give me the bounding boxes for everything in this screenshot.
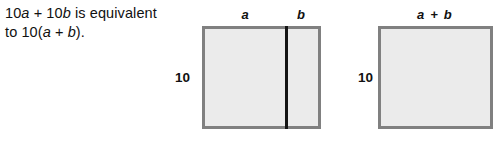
statement-line2-prefix: to 10( <box>5 24 43 40</box>
worked-example-figure: 10a + 10b is equivalent to 10(a + b). a … <box>0 0 503 142</box>
statement-line2-var-b: b <box>68 24 76 40</box>
statement-line1-suffix: is equivalent <box>71 5 157 21</box>
statement-line2-var-a: a <box>43 24 51 40</box>
equivalence-statement: 10a + 10b is equivalent to 10(a + b). <box>5 4 163 42</box>
figure2-side-label-height: 10 <box>358 70 373 85</box>
statement-line1-var-a: a <box>21 5 29 21</box>
statement-line1-prefix: 10 <box>5 5 21 21</box>
statement-line1-var-b: b <box>63 5 71 21</box>
statement-line-2: to 10(a + b). <box>5 23 163 42</box>
figure2-top-label-a-plus-b: a + b <box>396 8 474 22</box>
statement-line2-suffix: ). <box>76 24 85 40</box>
figure1-top-label-b: b <box>287 8 315 22</box>
figure1-rectangle <box>202 26 321 129</box>
figure1-vertical-divider <box>285 26 288 129</box>
figure1-side-label-height: 10 <box>175 70 190 85</box>
statement-line1-mid: + 10 <box>30 5 63 21</box>
figure2-rectangle <box>378 26 493 129</box>
statement-line-1: 10a + 10b is equivalent <box>5 4 163 23</box>
figure1-top-label-a: a <box>226 8 264 22</box>
statement-line2-mid: + <box>51 24 68 40</box>
